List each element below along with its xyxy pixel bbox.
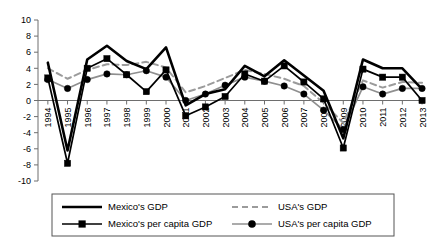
y-tick-label: 6	[26, 47, 31, 57]
y-axis: 1086420-2-4-6-8-10	[18, 15, 38, 186]
x-tick-label-2011: 2011	[378, 108, 388, 127]
data-point-marker	[84, 65, 90, 71]
data-point-marker	[301, 79, 307, 85]
data-point-marker	[301, 91, 307, 97]
legend-box	[52, 194, 394, 236]
legend-circle-marker	[248, 220, 256, 228]
data-point-marker	[360, 66, 366, 72]
data-point-marker	[419, 97, 425, 103]
x-tick-label-1999: 1999	[142, 108, 152, 128]
data-point-marker	[320, 96, 326, 102]
data-point-marker	[261, 78, 267, 84]
y-tick-label: -8	[23, 160, 31, 170]
data-point-marker	[124, 72, 130, 78]
data-point-marker	[163, 67, 169, 73]
y-tick-label: -10	[18, 176, 31, 186]
x-tick-label-1996: 1996	[83, 108, 93, 128]
y-tick-label: 2	[26, 80, 31, 90]
x-tick-label-2005: 2005	[260, 108, 270, 128]
data-point-marker	[340, 145, 346, 151]
legend-square-marker	[79, 220, 86, 227]
y-tick-label: 4	[26, 64, 31, 74]
y-tick-label: 8	[26, 31, 31, 41]
data-point-marker	[281, 83, 287, 89]
data-point-marker	[222, 93, 228, 99]
y-tick-label: -2	[23, 112, 31, 122]
data-point-marker	[281, 63, 287, 69]
gdp-growth-chart: 1086420-2-4-6-8-10 199419951996199719981…	[0, 0, 438, 247]
data-point-marker	[45, 75, 51, 81]
data-point-marker	[104, 56, 110, 62]
data-series-group	[45, 46, 426, 167]
legend-label: USA's GDP	[278, 201, 327, 212]
data-point-marker	[379, 91, 385, 97]
data-point-marker	[64, 160, 70, 166]
y-tick-label: 10	[21, 15, 31, 25]
data-point-marker	[360, 84, 366, 90]
x-tick-label-1997: 1997	[102, 108, 112, 128]
x-tick-label-1998: 1998	[122, 108, 132, 128]
data-point-marker	[399, 74, 405, 80]
x-tick-label-2007: 2007	[299, 108, 309, 128]
x-axis: 1994199519961997199819992000200120022003…	[38, 101, 428, 128]
legend-label: Mexico's GDP	[108, 201, 168, 212]
data-point-marker	[399, 85, 405, 91]
x-tick-label-2006: 2006	[280, 108, 290, 128]
data-point-marker	[202, 104, 208, 110]
chart-legend: Mexico's GDPUSA's GDPMexico's per capita…	[52, 194, 394, 236]
data-point-marker	[143, 89, 149, 95]
legend-label: Mexico's per capita GDP	[108, 218, 212, 229]
chart-canvas: 1086420-2-4-6-8-10 199419951996199719981…	[0, 0, 438, 247]
data-point-marker	[64, 85, 70, 91]
legend-label: USA's per capita GDP	[278, 218, 372, 229]
x-tick-label-2002: 2002	[201, 108, 211, 128]
x-tick-label-2010: 2010	[358, 108, 368, 128]
x-tick-label-2012: 2012	[398, 108, 408, 128]
data-point-marker	[104, 71, 110, 77]
x-tick-label-2004: 2004	[240, 108, 250, 128]
x-tick-label-2013: 2013	[418, 108, 428, 128]
data-point-marker	[183, 113, 189, 119]
data-point-marker	[320, 107, 326, 113]
x-tick-label-1995: 1995	[63, 108, 73, 128]
x-tick-label-1994: 1994	[43, 108, 53, 128]
y-tick-label: -4	[23, 128, 31, 138]
x-tick-label-2003: 2003	[221, 108, 231, 128]
data-point-marker	[242, 71, 248, 77]
y-tick-label: 0	[26, 96, 31, 106]
x-tick-label-2000: 2000	[162, 108, 172, 128]
data-point-marker	[380, 74, 386, 80]
y-tick-label: -6	[23, 144, 31, 154]
